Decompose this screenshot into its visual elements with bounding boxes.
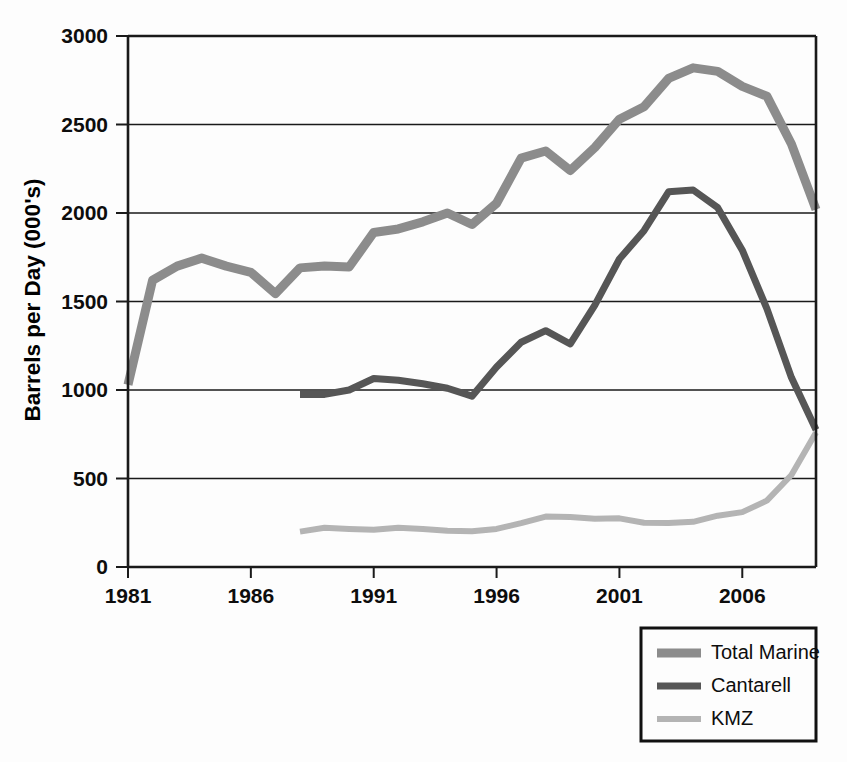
x-tick-label-2001: 2001: [596, 584, 643, 607]
y-tick-label-0: 0: [96, 555, 108, 578]
y-axis-title: Barrels per Day (000's): [20, 179, 45, 422]
line-chart: 0500100015002000250030001981198619911996…: [0, 0, 847, 762]
chart-legend[interactable]: Total MarineCantarellKMZ: [641, 628, 820, 741]
y-tick-label-2000: 2000: [61, 201, 108, 224]
y-tick-label-1500: 1500: [61, 290, 108, 313]
y-tick-label-500: 500: [73, 467, 108, 490]
legend-label-total-marine[interactable]: Total Marine: [711, 641, 820, 663]
series-line-total-marine: [128, 68, 816, 385]
tick-labels: 0500100015002000250030001981198619911996…: [61, 24, 765, 607]
y-tick-label-1000: 1000: [61, 378, 108, 401]
chart-figure: 0500100015002000250030001981198619911996…: [0, 0, 847, 762]
x-tick-label-1981: 1981: [105, 584, 152, 607]
gridlines: [128, 36, 816, 479]
legend-label-cantarell[interactable]: Cantarell: [711, 674, 791, 696]
legend-label-kmz[interactable]: KMZ: [711, 707, 753, 729]
data-series-layer: [128, 68, 816, 532]
x-tick-label-1986: 1986: [227, 584, 274, 607]
y-tick-label-2500: 2500: [61, 113, 108, 136]
x-tick-label-1996: 1996: [473, 584, 520, 607]
series-line-cantarell: [300, 190, 816, 430]
x-tick-label-1991: 1991: [350, 584, 397, 607]
y-tick-label-3000: 3000: [61, 24, 108, 47]
x-tick-label-2006: 2006: [719, 584, 766, 607]
series-line-kmz: [300, 432, 816, 531]
